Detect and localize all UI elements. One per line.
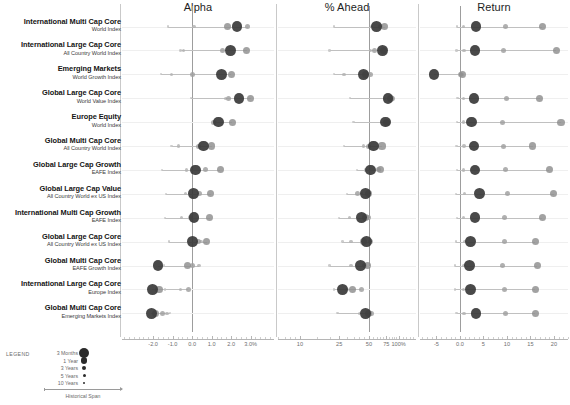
data-point-return-1-year	[553, 47, 560, 54]
axis-minor-tick	[373, 337, 374, 339]
data-point-ahead-3-months	[355, 260, 366, 271]
row-benchmark-name: All Country World ex US Index	[0, 241, 121, 248]
data-point-return-10-years	[455, 240, 457, 242]
axis-line-alpha	[122, 339, 274, 340]
row-benchmark-name: EAFE Index	[0, 217, 121, 224]
data-point-alpha-3-years	[186, 287, 191, 292]
row-label-4: Europe EquityWorld Index	[0, 113, 121, 128]
axis-minor-tick	[432, 337, 433, 339]
row-benchmark-name: EAFE Growth Index	[0, 265, 121, 272]
data-point-return-3-months	[429, 69, 440, 80]
legend-dot-1	[81, 357, 88, 364]
axis-minor-tick	[474, 337, 475, 339]
data-point-alpha-10-years	[163, 264, 165, 266]
axis-minor-tick	[396, 337, 397, 339]
legend-span-line	[44, 389, 122, 390]
axis-minor-tick	[207, 337, 208, 339]
row-label-9: Global Large Cap CoreAll Country World e…	[0, 233, 121, 248]
data-point-ahead-10-years	[333, 25, 335, 27]
data-point-return-10-years	[456, 97, 458, 99]
data-point-return-3-years	[500, 263, 505, 268]
data-point-return-3-months	[474, 188, 485, 199]
axis-minor-tick	[285, 337, 286, 339]
data-point-return-1-year	[557, 119, 564, 126]
data-point-alpha-3-months	[188, 188, 199, 199]
axis-minor-tick	[549, 337, 550, 339]
data-point-ahead-10-years	[349, 97, 351, 99]
row-benchmark-name: Europe Index	[0, 289, 121, 296]
axis-minor-tick	[479, 337, 480, 339]
legend-span-cap-left	[44, 388, 45, 391]
data-point-return-5-years	[462, 120, 465, 123]
row-label-1: International Large Cap CoreAll Country …	[0, 41, 121, 56]
data-point-ahead-3-months	[377, 45, 388, 56]
data-point-ahead-3-months	[360, 308, 371, 319]
axis-minor-tick	[563, 337, 564, 339]
axis-minor-tick	[535, 337, 536, 339]
axis-minor-tick	[441, 337, 442, 339]
data-point-return-10-years	[456, 25, 458, 27]
axis-minor-tick	[217, 337, 218, 339]
axis-major-tick	[231, 336, 232, 340]
data-point-ahead-3-years	[359, 287, 364, 292]
axis-minor-tick	[380, 337, 381, 339]
axis-minor-tick	[469, 337, 470, 339]
axis-minor-tick	[202, 337, 203, 339]
data-point-ahead-1-year	[381, 23, 388, 30]
data-point-alpha-3-months	[153, 260, 164, 271]
axis-minor-tick	[221, 337, 222, 339]
axis-minor-tick	[182, 337, 183, 339]
axis-minor-tick	[568, 337, 569, 339]
row-label-12: Global Multi Cap CoreEmerging Markets In…	[0, 304, 121, 319]
data-point-alpha-3-years	[190, 72, 195, 77]
axis-major-tick	[399, 336, 400, 340]
data-point-return-3-months	[465, 236, 476, 247]
row-benchmark-name: EAFE Index	[0, 169, 121, 176]
data-point-return-3-years	[501, 48, 506, 53]
row-strategy-name: Global Multi Cap Core	[0, 137, 121, 145]
data-point-alpha-3-months	[232, 21, 243, 32]
axis-minor-tick	[129, 337, 130, 339]
data-point-return-3-years	[502, 287, 507, 292]
row-strategy-name: Global Multi Cap Core	[0, 257, 121, 265]
axis-minor-tick	[446, 337, 447, 339]
data-point-return-1-year	[534, 262, 541, 269]
data-point-return-10-years	[454, 264, 456, 266]
axis-minor-tick	[124, 337, 125, 339]
axis-major-tick	[386, 336, 387, 340]
column-header-ahead: % Ahead	[278, 1, 416, 13]
axis-minor-tick	[139, 337, 140, 339]
axis-major-tick	[436, 336, 437, 340]
data-point-return-3-months	[469, 141, 480, 152]
data-point-alpha-10-years	[160, 73, 162, 75]
data-point-return-3-years	[500, 120, 505, 125]
data-point-alpha-5-years	[185, 168, 188, 171]
axis-minor-tick	[410, 337, 411, 339]
data-point-alpha-10-years	[169, 312, 171, 314]
column-header-return: Return	[420, 1, 568, 13]
data-point-alpha-1-year	[247, 95, 254, 102]
axis-minor-tick	[512, 337, 513, 339]
data-point-return-3-years	[503, 311, 508, 316]
row-strategy-name: Global Large Cap Core	[0, 89, 121, 97]
data-point-return-1-year	[532, 238, 539, 245]
data-point-ahead-3-years	[372, 48, 377, 53]
data-point-ahead-5-years	[349, 240, 352, 243]
data-point-return-3-years	[504, 96, 509, 101]
row-label-5: Global Multi Cap CoreAll Country World I…	[0, 137, 121, 152]
row-guide	[122, 313, 274, 314]
data-point-return-3-months	[464, 260, 475, 271]
axis-minor-tick	[377, 337, 378, 339]
axis-minor-tick	[383, 337, 384, 339]
axis-minor-tick	[394, 337, 395, 339]
data-point-return-3-years	[503, 167, 508, 172]
data-point-alpha-3-months	[213, 117, 224, 128]
axis-minor-tick	[465, 337, 466, 339]
row-strategy-name: Global Multi Cap Core	[0, 304, 121, 312]
row-benchmark-name: World Value Index	[0, 98, 121, 105]
data-point-return-10-years	[455, 49, 457, 51]
row-benchmark-name: All Country World ex US Index	[0, 193, 121, 200]
data-point-return-1-year	[539, 214, 546, 221]
row-label-6: Global Large Cap GrowthEAFE Index	[0, 161, 121, 176]
